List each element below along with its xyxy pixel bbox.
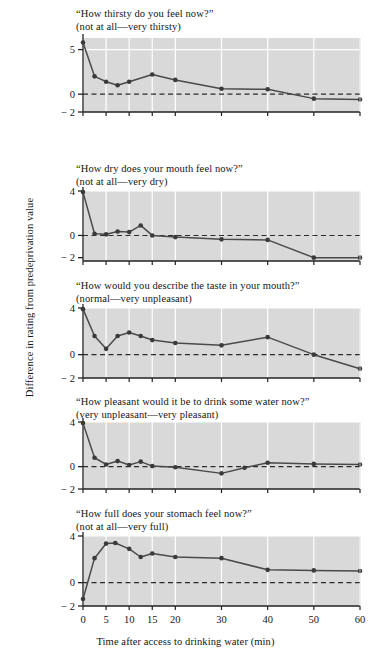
svg-text:4: 4 [70, 531, 76, 542]
panel-thirsty: “How thirsty do you feel now?” (not at a… [0, 8, 371, 138]
plot-area-dry-mouth: 40− 2 [0, 163, 371, 288]
panel-taste: “How would you describe the taste in you… [0, 280, 371, 405]
svg-text:30: 30 [216, 614, 227, 625]
panel-dry-mouth: “How dry does your mouth feel now?” (not… [0, 163, 371, 288]
svg-text:60: 60 [355, 614, 366, 625]
svg-text:5: 5 [103, 614, 108, 625]
x-axis-label: Time after access to drinking water (min… [0, 636, 371, 647]
svg-text:0: 0 [70, 461, 75, 472]
svg-text:10: 10 [124, 614, 135, 625]
svg-text:− 2: − 2 [61, 484, 75, 495]
svg-text:0: 0 [70, 89, 75, 100]
svg-text:4: 4 [70, 186, 76, 197]
svg-text:0: 0 [70, 230, 75, 241]
svg-text:− 2: − 2 [61, 107, 75, 118]
svg-text:0: 0 [70, 349, 75, 360]
plot-area-taste: 40− 2 [0, 280, 371, 405]
svg-text:− 2: − 2 [61, 601, 75, 612]
plot-area-pleasant: 40− 2 [0, 396, 371, 516]
svg-text:4: 4 [70, 303, 76, 314]
plot-area-thirsty: 50− 2 [0, 8, 371, 138]
svg-text:4: 4 [70, 417, 76, 428]
svg-text:15: 15 [147, 614, 158, 625]
svg-text:50: 50 [309, 614, 320, 625]
panel-pleasant: “How pleasant would it be to drink some … [0, 396, 371, 516]
svg-text:40: 40 [262, 614, 273, 625]
svg-text:− 2: − 2 [61, 373, 75, 384]
svg-text:5: 5 [70, 44, 75, 55]
svg-text:0: 0 [80, 614, 85, 625]
svg-text:0: 0 [70, 577, 75, 588]
svg-text:− 2: − 2 [61, 252, 75, 263]
panel-stomach-full: “How full does your stomach feel now?” (… [0, 508, 371, 633]
figure-container: Difference in rating from predeprivation… [0, 0, 371, 658]
plot-area-stomach-full: 40− 20510152030405060 [0, 508, 371, 633]
svg-text:20: 20 [170, 614, 181, 625]
